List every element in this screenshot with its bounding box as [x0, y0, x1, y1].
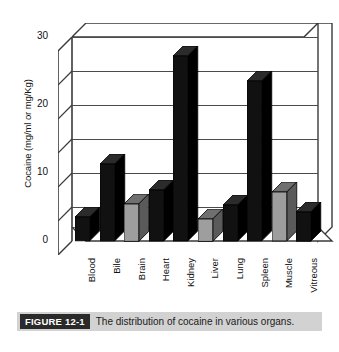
bar-spleen — [247, 71, 262, 241]
bar-muscle — [272, 182, 287, 241]
figure-number-badge: FIGURE 12-1 — [20, 314, 90, 330]
figure-caption: FIGURE 12-1 The distribution of cocaine … — [17, 312, 322, 331]
y-tick-10: 10 — [26, 166, 48, 177]
x-label-vitreous: Vitreous — [308, 258, 319, 293]
x-label-brain: Brain — [136, 258, 147, 280]
plot-area — [58, 23, 330, 255]
bar-series — [58, 23, 330, 255]
x-label-lung: Lung — [234, 258, 245, 279]
bar-vitreous — [296, 202, 311, 241]
x-label-muscle: Muscle — [283, 258, 294, 288]
bar-bile — [100, 154, 115, 241]
figure-container: Cocaine (mg/ml or mg/Kg) — [0, 0, 339, 352]
x-label-spleen: Spleen — [259, 258, 270, 288]
x-label-kidney: Kidney — [185, 258, 196, 287]
bar-liver — [198, 209, 213, 241]
bar-blood — [75, 207, 90, 241]
y-tick-0: 0 — [26, 234, 48, 245]
x-axis-labels: BloodBileBrainHeartKidneyLiverLungSpleen… — [58, 258, 338, 304]
x-label-blood: Blood — [86, 258, 97, 282]
bar-heart — [149, 180, 164, 241]
figure-caption-text: The distribution of cocaine in various o… — [96, 317, 294, 327]
bar-lung — [223, 195, 238, 241]
x-label-bile: Bile — [111, 258, 122, 274]
bar-brain — [124, 194, 139, 241]
x-label-liver: Liver — [209, 258, 220, 279]
bar-kidney — [173, 46, 188, 241]
y-tick-20: 20 — [26, 98, 48, 109]
bar-chart: Cocaine (mg/ml or mg/Kg) — [0, 0, 339, 300]
y-tick-30: 30 — [26, 30, 48, 41]
y-axis-title: Cocaine (mg/ml or mg/Kg) — [22, 49, 33, 219]
x-label-heart: Heart — [160, 258, 171, 281]
